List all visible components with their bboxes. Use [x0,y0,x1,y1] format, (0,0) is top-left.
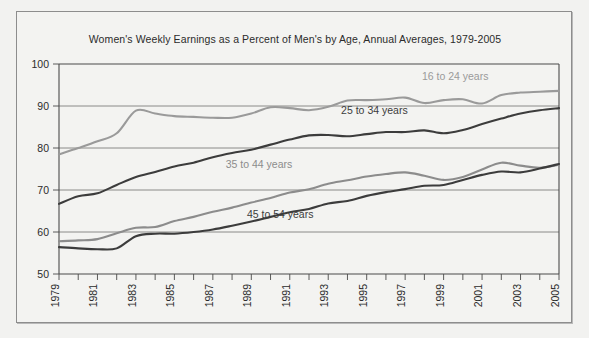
x-tick-label: 1993 [318,284,330,308]
series-label-2: 25 to 34 years [341,104,408,116]
y-tick-label: 100 [31,58,49,70]
y-tick-label: 90 [37,100,49,112]
x-tick-label: 1981 [87,284,99,308]
x-tick-label: 1985 [164,284,176,308]
x-tick-label: 1989 [241,284,253,308]
x-tick-label: 1999 [434,284,446,308]
x-tick-label: 2003 [511,284,523,308]
chart-frame: Women's Weekly Earnings as a Percent of … [16,11,572,323]
x-tick-label: 1997 [395,284,407,308]
series-label-1: 16 to 24 years [422,70,489,82]
x-tick-label: 1983 [126,284,138,308]
y-tick-label: 60 [37,226,49,238]
series-label-4: 45 to 54 years [247,208,314,220]
y-tick-label: 50 [37,268,49,280]
series-label-3: 35 to 44 years [226,158,293,170]
x-tick-label: 2001 [472,284,484,308]
y-tick-label: 80 [37,142,49,154]
x-tick-label: 2005 [549,284,561,308]
chart-figure: Women's Weekly Earnings as a Percent of … [0,0,589,338]
chart-plot-area: 5060708090100197919811983198519871989199… [17,12,573,324]
y-tick-label: 70 [37,184,49,196]
x-tick-label: 1979 [49,284,61,308]
x-tick-label: 1987 [203,284,215,308]
x-tick-label: 1995 [357,284,369,308]
x-tick-label: 1991 [280,284,292,308]
